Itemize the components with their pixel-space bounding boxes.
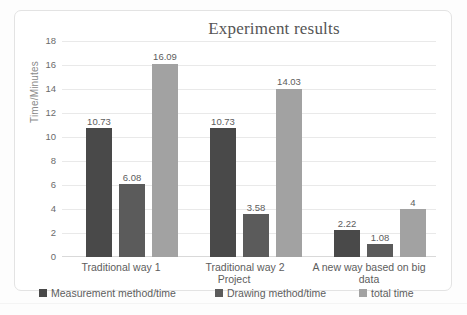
bar-measurement[interactable]: 10.73	[210, 128, 236, 257]
y-tick-label: 18	[45, 36, 56, 46]
bar-value-label: 10.73	[211, 117, 235, 127]
bar-group: 2.22 1.08 4	[316, 41, 434, 257]
bar-value-label: 16.09	[153, 52, 177, 62]
bar-value-label: 1.08	[371, 233, 390, 243]
bar-drawing[interactable]: 6.08	[119, 184, 145, 257]
x-category-label: Traditional way 2	[186, 261, 304, 273]
y-tick-label: 4	[51, 204, 56, 214]
x-category-label: Traditional way 1	[62, 261, 180, 273]
x-axis-title: Project	[15, 273, 453, 285]
y-tick-label: 6	[51, 180, 56, 190]
legend-label: Drawing method/time	[227, 287, 326, 299]
chart-title: Experiment results	[15, 19, 453, 39]
page-rule	[0, 303, 467, 304]
bar-value-label: 4	[410, 198, 415, 208]
y-axis-title: Time/Minutes	[29, 61, 40, 123]
y-tick-label: 12	[45, 108, 56, 118]
bar-value-label: 10.73	[87, 117, 111, 127]
bar-measurement[interactable]: 2.22	[334, 230, 360, 257]
bar-value-label: 2.22	[338, 219, 357, 229]
legend-label: Measurement method/time	[51, 287, 176, 299]
bar-group: 10.73 3.58 14.03	[192, 41, 310, 257]
bar-total[interactable]: 14.03	[276, 89, 302, 257]
bar-group: 10.73 6.08 16.09	[68, 41, 186, 257]
bar-value-label: 14.03	[277, 77, 301, 87]
y-tick-label: 14	[45, 84, 56, 94]
bar-value-label: 3.58	[247, 203, 266, 213]
bar-drawing[interactable]: 1.08	[367, 244, 393, 257]
legend-swatch-icon	[215, 289, 223, 297]
bar-value-label: 6.08	[123, 173, 142, 183]
legend-swatch-icon	[39, 289, 47, 297]
bar-measurement[interactable]: 10.73	[86, 128, 112, 257]
legend-swatch-icon	[359, 289, 367, 297]
bar-total[interactable]: 4	[400, 209, 426, 257]
legend-label: total time	[371, 287, 414, 299]
y-tick-label: 8	[51, 156, 56, 166]
y-tick-label: 0	[51, 252, 56, 262]
chart-container: Experiment results Time/Minutes 18 16 14…	[14, 10, 452, 291]
figure: Experiment results Time/Minutes 18 16 14…	[0, 0, 467, 315]
y-tick-label: 16	[45, 60, 56, 70]
y-tick-label: 10	[45, 132, 56, 142]
plot-area: 18 16 14 12 10 8 6 4 2 0 10.73 6.08 16.0…	[62, 41, 436, 257]
y-tick-label: 2	[51, 228, 56, 238]
legend-item-drawing[interactable]: Drawing method/time	[215, 287, 326, 299]
bar-drawing[interactable]: 3.58	[243, 214, 269, 257]
legend: Measurement method/time Drawing method/t…	[15, 287, 453, 303]
bar-total[interactable]: 16.09	[152, 64, 178, 257]
legend-item-total[interactable]: total time	[359, 287, 414, 299]
legend-item-measurement[interactable]: Measurement method/time	[39, 287, 176, 299]
